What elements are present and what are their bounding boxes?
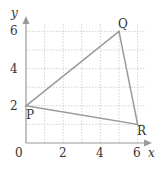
x-tick-4: 4: [96, 146, 104, 160]
y-tick-2: 2: [10, 99, 18, 113]
y-axis-arrow-icon: [23, 16, 30, 24]
axes: [23, 16, 153, 147]
x-tick-2: 2: [59, 146, 67, 160]
x-axis-label: x: [148, 146, 155, 160]
y-tick-6: 6: [10, 24, 18, 38]
grid-lines: [26, 24, 146, 143]
coordinate-plane: y x 0 2 4 6 2 4 6 P Q R: [0, 0, 163, 169]
x-tick-6: 6: [133, 146, 141, 160]
point-p-label: P: [26, 108, 34, 122]
point-r-label: R: [137, 124, 147, 138]
y-axis-label: y: [10, 6, 18, 20]
y-tick-4: 4: [10, 62, 18, 76]
point-q-label: Q: [118, 17, 128, 31]
origin-label: 0: [15, 146, 23, 160]
